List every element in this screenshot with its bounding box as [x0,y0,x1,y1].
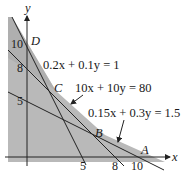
arrow-eq2 [71,95,83,104]
tick-y-8: 8 [17,61,23,75]
y-axis-label: y [23,1,31,15]
x-axis-label: x [171,150,178,164]
equation-1-label: 0.2x + 0.1y = 1 [43,58,120,72]
equation-2-label: 10x + 10y = 80 [75,81,152,95]
tick-x-5: 5 [80,159,86,173]
tick-x-8: 8 [112,159,118,173]
point-a-label: A [140,143,149,157]
point-b-label: B [95,126,103,140]
point-c-label: C [54,81,63,95]
tick-y-10: 10 [11,37,23,51]
tick-x-10: 10 [131,159,143,173]
arrow-eq3 [118,120,124,142]
tick-y-5: 5 [17,94,23,108]
feasible-region-chart: y x 10 8 5 5 8 10 D C B A 0.2x + 0.1y = … [0,0,181,176]
equation-3-label: 0.15x + 0.3y = 1.5 [88,106,180,120]
point-d-label: D [30,34,40,48]
